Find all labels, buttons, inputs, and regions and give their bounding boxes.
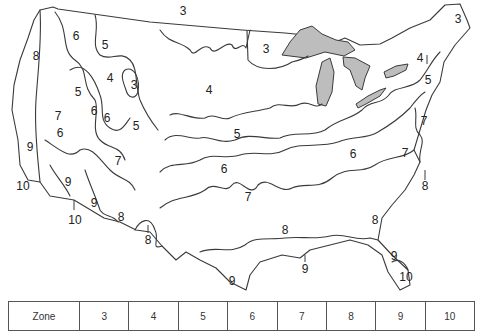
zone-label: 6 bbox=[57, 127, 64, 139]
zone-legend-table: Zone 3 4 5 6 7 8 9 10 bbox=[8, 301, 475, 331]
legend-zone-6: 6 bbox=[228, 302, 277, 331]
zone-label: 5 bbox=[133, 120, 140, 132]
zone-label: 3 bbox=[131, 79, 138, 91]
zone-label: 6 bbox=[91, 105, 98, 117]
zone-label: 6 bbox=[73, 30, 80, 42]
zone-label: 3 bbox=[263, 43, 270, 55]
zone-label: 7 bbox=[115, 155, 122, 167]
zone-label: 9 bbox=[91, 197, 98, 209]
legend-row: Zone 3 4 5 6 7 8 9 10 bbox=[9, 302, 475, 331]
legend-zone-3: 3 bbox=[80, 302, 129, 331]
zone-label: 9 bbox=[391, 250, 398, 262]
zone-label: 6 bbox=[350, 148, 357, 160]
zone-label: 8 bbox=[422, 180, 429, 192]
zone-label: 10 bbox=[68, 214, 81, 226]
zone-label: 3 bbox=[455, 13, 462, 25]
legend-zone-4: 4 bbox=[129, 302, 178, 331]
legend-zone-8: 8 bbox=[326, 302, 375, 331]
legend-zone-7: 7 bbox=[277, 302, 326, 331]
zone-label: 4 bbox=[107, 72, 114, 84]
zone-label: 5 bbox=[425, 74, 432, 86]
zone-label: 8 bbox=[33, 50, 40, 62]
lake-superior bbox=[282, 26, 355, 58]
zone-label: 6 bbox=[221, 163, 228, 175]
zone-label: 5 bbox=[102, 39, 109, 51]
zone-label: 7 bbox=[402, 147, 409, 159]
hardiness-zone-map bbox=[0, 0, 483, 295]
zone-label: 10 bbox=[399, 271, 412, 283]
zone-label: 5 bbox=[75, 86, 82, 98]
zone-label: 9 bbox=[229, 275, 236, 287]
zone-label: 7 bbox=[421, 115, 428, 127]
zone-label: 10 bbox=[16, 180, 29, 192]
zone-label: 9 bbox=[27, 141, 34, 153]
legend-header: Zone bbox=[9, 302, 80, 331]
zone-label: 7 bbox=[55, 110, 62, 122]
legend-zone-10: 10 bbox=[425, 302, 474, 331]
zone-label: 4 bbox=[206, 84, 213, 96]
zone-label: 8 bbox=[282, 224, 289, 236]
legend-zone-9: 9 bbox=[376, 302, 425, 331]
zone-label: 4 bbox=[417, 52, 424, 64]
zone-label: 8 bbox=[145, 234, 152, 246]
zone-label: 7 bbox=[245, 191, 252, 203]
zone-label: 9 bbox=[65, 176, 72, 188]
zone-label: 9 bbox=[302, 263, 309, 275]
zone-label: 8 bbox=[118, 211, 125, 223]
zone-label: 8 bbox=[372, 214, 379, 226]
zone-label: 5 bbox=[234, 128, 241, 140]
zone-label: 3 bbox=[180, 5, 187, 17]
zone-label: 6 bbox=[104, 112, 111, 124]
legend-zone-5: 5 bbox=[178, 302, 227, 331]
